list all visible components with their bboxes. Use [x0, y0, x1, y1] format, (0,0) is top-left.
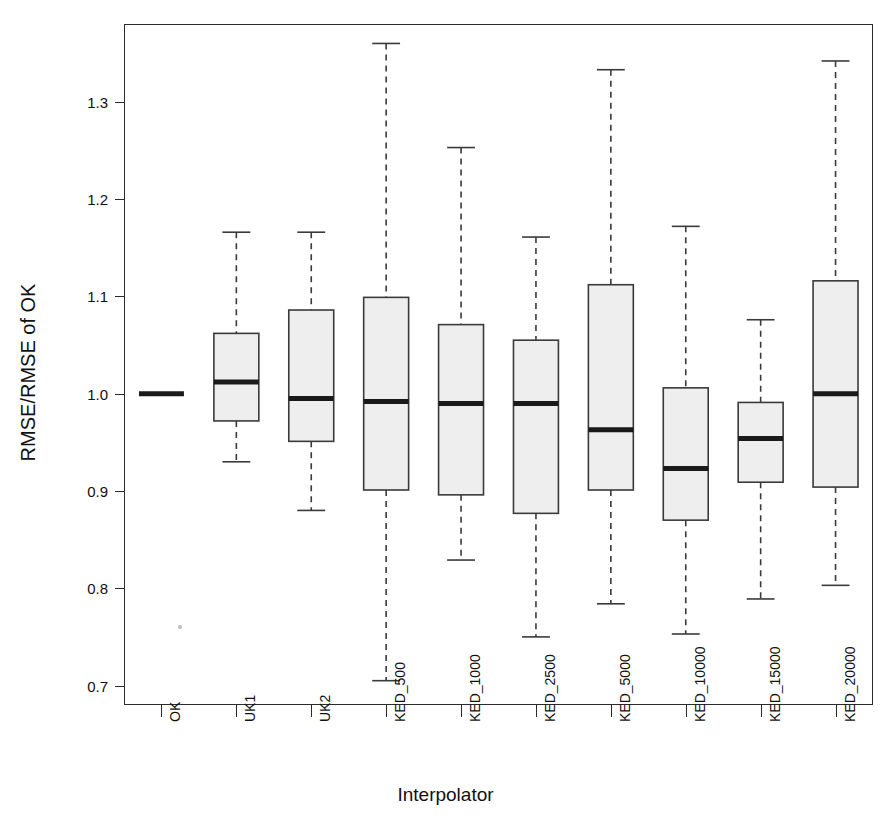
y-tick-label: 0.8: [0, 580, 108, 597]
y-tick-mark: [115, 686, 124, 687]
box-rect: [588, 285, 633, 490]
box-group-ked_1000: [439, 148, 484, 560]
y-tick-label: 1.0: [0, 385, 108, 402]
x-tick-mark: [311, 705, 312, 717]
box-group-uk1: [214, 232, 259, 462]
box-rect: [289, 310, 334, 441]
y-tick-mark: [115, 394, 124, 395]
box-group-uk2: [289, 232, 334, 510]
x-tick-label-ked_20000: KED_20000: [842, 646, 858, 722]
x-tick-label-ked_1000: KED_1000: [467, 654, 483, 722]
x-tick-label-ked_5000: KED_5000: [617, 654, 633, 722]
box-rect: [513, 340, 558, 513]
x-tick-label-ok: OK: [167, 702, 183, 722]
box-rect: [214, 333, 259, 421]
x-tick-label-ked_500: KED_500: [392, 662, 408, 722]
x-tick-label-ked_15000: KED_15000: [767, 646, 783, 722]
y-tick-label: 0.9: [0, 482, 108, 499]
x-tick-mark: [386, 705, 387, 717]
x-tick-mark: [161, 705, 162, 717]
box-rect: [813, 281, 858, 487]
x-tick-mark: [611, 705, 612, 717]
x-tick-mark: [761, 705, 762, 717]
y-tick-label: 1.3: [0, 93, 108, 110]
x-tick-mark: [536, 705, 537, 717]
x-tick-label-ked_2500: KED_2500: [542, 654, 558, 722]
box-group-ked_15000: [738, 320, 783, 599]
boxplot-series: [124, 24, 873, 705]
x-axis-title: Interpolator: [0, 784, 891, 806]
y-tick-mark: [115, 296, 124, 297]
box-group-ked_10000: [663, 226, 708, 634]
scan-artifact-speck: [178, 625, 182, 629]
box-rect: [439, 325, 484, 495]
box-rect: [364, 297, 409, 490]
x-tick-label-uk1: UK1: [242, 695, 258, 722]
y-tick-mark: [115, 199, 124, 200]
box-group-ked_5000: [588, 70, 633, 604]
x-tick-mark: [686, 705, 687, 717]
x-tick-mark: [836, 705, 837, 717]
box-group-ked_500: [364, 43, 409, 680]
boxplot-figure: RMSE/RMSE of OK 0.70.80.91.01.11.21.3 OK…: [0, 0, 891, 822]
y-axis-ticks: 0.70.80.91.01.11.21.3: [0, 0, 112, 822]
box-rect: [738, 402, 783, 482]
y-tick-label: 0.7: [0, 677, 108, 694]
box-group-ked_2500: [513, 237, 558, 637]
y-tick-label: 1.2: [0, 191, 108, 208]
chart-title: [0, 0, 891, 8]
y-tick-mark: [115, 491, 124, 492]
x-tick-label-ked_10000: KED_10000: [692, 646, 708, 722]
y-tick-label: 1.1: [0, 288, 108, 305]
x-tick-mark: [461, 705, 462, 717]
x-tick-label-uk2: UK2: [317, 695, 333, 722]
box-group-ked_20000: [813, 61, 858, 585]
x-tick-mark: [236, 705, 237, 717]
box-rect: [663, 388, 708, 520]
y-tick-mark: [115, 588, 124, 589]
plot-area: [124, 24, 873, 705]
y-tick-mark: [115, 102, 124, 103]
